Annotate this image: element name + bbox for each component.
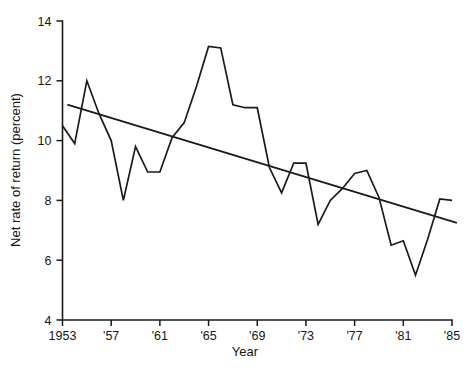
- y-tick-label: 4: [45, 314, 52, 328]
- x-tick-label: '65: [200, 329, 216, 343]
- line-chart: 468101214 1953'57'61'65'69'73'77'81'85 Y…: [0, 0, 474, 376]
- axis-lines: [63, 21, 453, 320]
- linear-trend-line: [67, 105, 457, 223]
- x-tick-label: '85: [444, 329, 460, 343]
- y-tick-label: 14: [38, 15, 52, 29]
- y-axis-title: Net rate of return (percent): [8, 93, 23, 247]
- y-tick-label: 6: [45, 254, 52, 268]
- x-axis-tick-labels: 1953'57'61'65'69'73'77'81'85: [49, 329, 461, 343]
- y-tick-label: 8: [45, 194, 52, 208]
- y-axis-tick-labels: 468101214: [38, 15, 52, 328]
- y-tick-label: 10: [38, 134, 52, 148]
- x-tick-label: '77: [346, 329, 362, 343]
- x-tick-label: '61: [152, 329, 168, 343]
- x-axis-ticks: [63, 320, 453, 326]
- chart-page: 468101214 1953'57'61'65'69'73'77'81'85 Y…: [0, 0, 474, 376]
- x-tick-label: '69: [249, 329, 265, 343]
- net-rate-of-return-line: [63, 46, 453, 275]
- x-tick-label: '81: [395, 329, 411, 343]
- x-tick-label: '57: [103, 329, 119, 343]
- y-axis-ticks: [57, 21, 63, 320]
- y-tick-label: 12: [38, 74, 52, 88]
- x-axis-title: Year: [232, 344, 259, 359]
- x-tick-label: 1953: [49, 329, 77, 343]
- x-tick-label: '73: [298, 329, 314, 343]
